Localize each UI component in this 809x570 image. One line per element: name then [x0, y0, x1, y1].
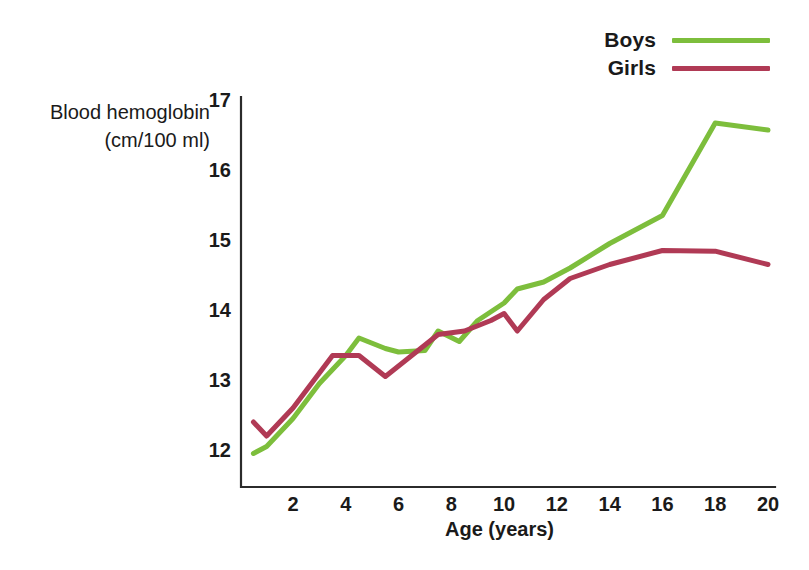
x-tick-label-12: 12	[537, 493, 577, 516]
y-tick-label-13: 13	[189, 369, 231, 392]
y-axis-title-line-1: Blood hemoglobin	[50, 101, 210, 123]
legend-item-boys: Boys	[600, 26, 800, 54]
plot-area	[0, 0, 809, 570]
x-tick-label-20: 20	[748, 493, 788, 516]
legend-label-girls: Girls	[600, 56, 672, 80]
y-tick-label-15: 15	[189, 229, 231, 252]
legend-swatch-girls	[672, 66, 770, 71]
x-tick-label-8: 8	[431, 493, 471, 516]
x-tick-label-18: 18	[695, 493, 735, 516]
hemoglobin-vs-age-chart: Boys Girls Blood hemoglobin (cm/100 ml) …	[0, 0, 809, 570]
y-tick-label-17: 17	[189, 89, 231, 112]
y-axis-title-line-2: (cm/100 ml)	[14, 126, 210, 154]
x-tick-label-16: 16	[642, 493, 682, 516]
y-tick-label-12: 12	[189, 439, 231, 462]
series-line-boys	[253, 123, 768, 453]
x-tick-label-4: 4	[326, 493, 366, 516]
y-tick-label-14: 14	[189, 299, 231, 322]
y-axis-title: Blood hemoglobin (cm/100 ml)	[14, 98, 210, 154]
legend-item-girls: Girls	[600, 54, 800, 82]
x-tick-label-14: 14	[590, 493, 630, 516]
x-axis-title-text: Age (years)	[445, 518, 554, 540]
x-tick-label-6: 6	[379, 493, 419, 516]
legend-swatch-boys	[672, 38, 770, 43]
x-tick-label-10: 10	[484, 493, 524, 516]
series-line-girls	[253, 251, 768, 437]
legend-label-boys: Boys	[600, 28, 672, 52]
chart-legend: Boys Girls	[600, 26, 800, 82]
y-tick-label-16: 16	[189, 159, 231, 182]
x-tick-label-2: 2	[273, 493, 313, 516]
x-axis-title: Age (years)	[0, 518, 809, 541]
